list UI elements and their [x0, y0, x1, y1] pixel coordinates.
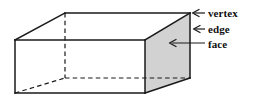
- label-vertex: vertex: [208, 8, 238, 19]
- geometry-diagram: vertex edge face: [0, 0, 255, 108]
- edge-callout-arrow: [194, 26, 206, 33]
- hidden-edge-bottom-left-diagonal: [15, 78, 65, 93]
- label-edge: edge: [208, 24, 230, 35]
- label-face: face: [208, 39, 227, 50]
- edge-top-left-diagonal: [15, 13, 65, 40]
- vertex-callout-arrow: [193, 10, 206, 17]
